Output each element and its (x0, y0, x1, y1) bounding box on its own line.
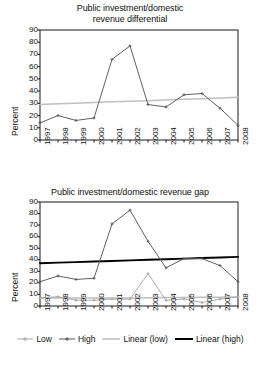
top-x-tick-labels: 1997199819992000200120022003200420052006… (0, 24, 260, 64)
x-tick-label: 2006 (206, 293, 214, 311)
legend-label: High (78, 334, 95, 344)
y-tick-label: 40 (29, 87, 38, 95)
x-tick-label: 2007 (224, 293, 232, 311)
bottom-chart-title-line1: Public investment/domestic revenue gap (0, 187, 260, 198)
chart-public-investment-differential: Public investment/domestic revenue diffe… (0, 0, 260, 184)
y-tick-label: 50 (29, 75, 38, 83)
x-tick-label: 1998 (62, 127, 70, 145)
legend-swatch-icon (16, 335, 34, 343)
x-tick-label: 2003 (152, 127, 160, 145)
top-chart-title-line2: revenue differential (0, 14, 260, 25)
y-tick-label: 20 (29, 278, 38, 286)
x-tick-label: 1997 (44, 293, 52, 311)
legend-swatch-icon (101, 335, 121, 343)
y-tick-label: 30 (29, 99, 38, 107)
legend-label: Low (36, 334, 52, 344)
top-chart-title-line1: Public investment/domestic (0, 3, 260, 14)
chart-legend: LowHighLinear (low)Linear (high) (0, 334, 260, 344)
bottom-x-tick-labels: 1997199819992000200120022003200420052006… (0, 198, 260, 238)
legend-item-linear-low: Linear (low) (101, 334, 167, 344)
x-tick-label: 2004 (170, 293, 178, 311)
legend-item-low: Low (16, 334, 52, 344)
x-tick-label: 2005 (188, 293, 196, 311)
legend-item-linear-high: Linear (high) (174, 334, 244, 344)
x-tick-label: 2004 (170, 127, 178, 145)
top-plot-area: Percent 0102030405060708090 199719981999… (0, 24, 260, 174)
bottom-chart-title: Public investment/domestic revenue gap (0, 184, 260, 198)
y-tick-label: 0 (34, 302, 38, 310)
y-tick-label: 30 (29, 267, 38, 275)
x-tick-label: 1997 (44, 127, 52, 145)
y-tick-label: 0 (34, 136, 38, 144)
x-tick-label: 2001 (116, 293, 124, 311)
x-tick-label: 2000 (98, 127, 106, 145)
x-tick-label: 2002 (134, 127, 142, 145)
x-tick-label: 2000 (98, 293, 106, 311)
x-tick-label: 2001 (116, 127, 124, 145)
y-tick-label: 40 (29, 255, 38, 263)
x-tick-label: 1998 (62, 293, 70, 311)
x-tick-label: 2005 (188, 127, 196, 145)
chart-public-investment-gap: Public investment/domestic revenue gap P… (0, 184, 260, 367)
top-chart-title: Public investment/domestic revenue diffe… (0, 0, 260, 24)
x-tick-label: 2008 (242, 293, 250, 311)
y-tick-label: 20 (29, 112, 38, 120)
y-tick-label: 10 (29, 290, 38, 298)
y-tick-label: 50 (29, 244, 38, 252)
legend-swatch-icon (58, 335, 76, 343)
legend-label: Linear (high) (196, 334, 244, 344)
x-tick-label: 1999 (80, 293, 88, 311)
bottom-plot-area: Percent 0102030405060708090 199719981999… (0, 198, 260, 338)
legend-label: Linear (low) (123, 334, 167, 344)
legend-item-high: High (58, 334, 95, 344)
x-tick-label: 2008 (242, 127, 250, 145)
x-tick-label: 2003 (152, 293, 160, 311)
x-tick-label: 1999 (80, 127, 88, 145)
x-tick-label: 2002 (134, 293, 142, 311)
x-tick-label: 2007 (224, 127, 232, 145)
x-tick-label: 2006 (206, 127, 214, 145)
y-tick-label: 10 (29, 124, 38, 132)
legend-swatch-icon (174, 335, 194, 343)
